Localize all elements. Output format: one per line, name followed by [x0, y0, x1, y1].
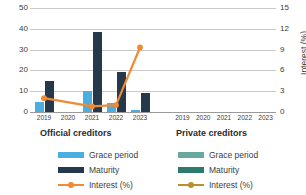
interest-marker-official-2019	[41, 95, 47, 101]
y-axis-left-tick-label: 20	[4, 66, 28, 74]
legend-item-private-maturity[interactable]: Maturity	[178, 162, 258, 177]
legend-private-creditors: Grace periodMaturityInterest (%)	[178, 147, 258, 192]
legend-label: Maturity	[209, 165, 239, 175]
y-axis-right-tick-label: 12	[280, 25, 300, 33]
panel-caption-private-creditors: Private creditors	[176, 128, 247, 138]
legend-color-swatch	[178, 152, 204, 158]
legend-item-official-interest[interactable]: Interest (%)	[58, 177, 138, 192]
legend-label: Grace period	[89, 150, 138, 160]
y-axis-right-tick-label: 9	[280, 46, 300, 54]
y-axis-right-tick-label: 15	[280, 4, 300, 12]
y-axis-left-tick-label: 40	[4, 25, 28, 33]
legend-color-swatch	[178, 167, 204, 173]
y-axis-right-tick-label: 3	[280, 87, 300, 95]
legend-color-swatch	[58, 167, 84, 173]
x-axis-tick-label-private-2020: 2020	[192, 114, 214, 121]
x-axis-tick-label-private-2023: 2023	[255, 114, 277, 121]
legend-label: Interest (%)	[209, 180, 253, 190]
interest-line-segment-official	[116, 48, 140, 106]
plot-area	[30, 8, 276, 112]
axis-baseline	[30, 112, 276, 113]
interest-line-series	[30, 8, 276, 112]
y-axis-right-tick-label: 0	[280, 108, 300, 116]
interest-marker-official-2021	[89, 104, 95, 110]
interest-marker-official-2023	[137, 45, 143, 51]
legend-item-private-grace-period[interactable]: Grace period	[178, 147, 258, 162]
legend-line-swatch	[178, 181, 204, 189]
x-axis-tick-label-official-2022: 2022	[105, 114, 127, 121]
x-axis-tick-label-private-2022: 2022	[234, 114, 256, 121]
y-axis-left-tick-label: 50	[4, 4, 28, 12]
x-axis-tick-label-official-2019: 2019	[33, 114, 55, 121]
legend-item-official-maturity[interactable]: Maturity	[58, 162, 138, 177]
x-axis-tick-label-private-2021: 2021	[213, 114, 235, 121]
interest-line-segment-official	[44, 98, 92, 106]
legend-line-swatch	[58, 181, 84, 189]
interest-line-segment-official	[92, 105, 116, 106]
y-axis-left-tick-label: 30	[4, 46, 28, 54]
y-axis-right-tick-label: 6	[280, 66, 300, 74]
chart-root: Years Interest (%) 50403020100 15129630 …	[0, 0, 306, 195]
y-axis-right-title: Interest (%)	[299, 31, 306, 75]
legend-label: Interest (%)	[89, 180, 133, 190]
y-axis-left-tick-label: 0	[4, 108, 28, 116]
x-axis-tick-label-official-2021: 2021	[81, 114, 103, 121]
legend-label: Grace period	[209, 150, 258, 160]
x-axis-tick-label-official-2023: 2023	[129, 114, 151, 121]
x-axis-tick-label-private-2019: 2019	[171, 114, 193, 121]
legend-label: Maturity	[89, 165, 119, 175]
x-axis-tick-label-official-2020: 2020	[57, 114, 79, 121]
legend-color-swatch	[58, 152, 84, 158]
y-axis-left-tick-label: 10	[4, 87, 28, 95]
legend-official-creditors: Grace periodMaturityInterest (%)	[58, 147, 138, 192]
legend-item-official-grace-period[interactable]: Grace period	[58, 147, 138, 162]
panel-caption-official-creditors: Official creditors	[40, 128, 112, 138]
legend-item-private-interest[interactable]: Interest (%)	[178, 177, 258, 192]
interest-marker-official-2022	[113, 102, 119, 108]
